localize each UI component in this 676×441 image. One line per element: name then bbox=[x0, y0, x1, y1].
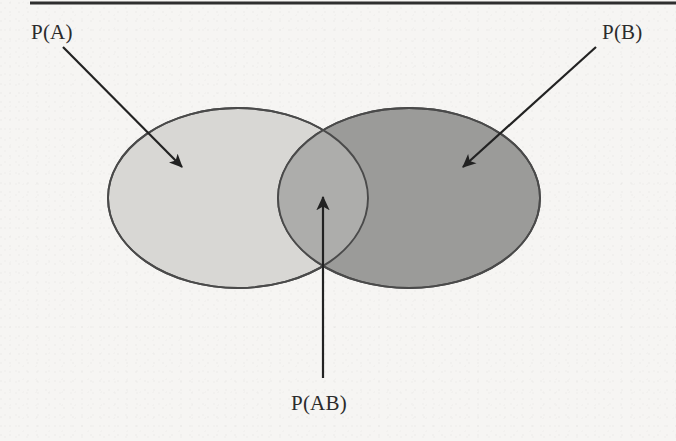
pointer-to-set-a-arrow bbox=[63, 47, 182, 167]
set-b-label: P(B) bbox=[602, 22, 642, 43]
figure-page: P(A) P(B) P(AB) bbox=[0, 0, 676, 441]
venn-diagram-figure bbox=[0, 0, 676, 441]
pointer-to-set-b-arrow bbox=[463, 47, 596, 167]
set-a-label: P(A) bbox=[31, 22, 73, 43]
intersection-label: P(AB) bbox=[291, 393, 347, 414]
